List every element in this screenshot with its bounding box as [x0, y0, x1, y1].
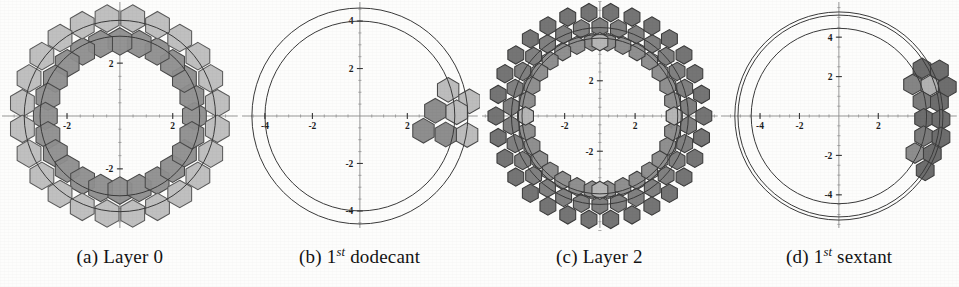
hex-cell [522, 184, 538, 202]
y-axis-tick-label: -2 [825, 151, 833, 161]
x-axis-tick-label: -2 [796, 121, 804, 131]
panel-a-plot: -22-22 [2, 2, 238, 228]
hex-cell [424, 98, 445, 123]
hex-cell [507, 46, 523, 64]
hex-cell [507, 134, 523, 152]
x-axis-tick-label: -2 [560, 121, 568, 131]
x-axis-tick-label: -2 [63, 121, 71, 131]
hex-cell [624, 206, 640, 224]
y-axis-tick-label: -2 [105, 164, 113, 174]
hex-cell [496, 149, 512, 167]
y-axis-tick-label: -2 [585, 147, 593, 157]
caption-label-a: (a) [77, 246, 99, 267]
hex-cell [539, 179, 555, 197]
y-axis-tick-label: 2 [109, 59, 114, 69]
y-axis-tick-label: 2 [828, 72, 833, 82]
hex-cell [95, 5, 119, 32]
caption-superscript-b: st [336, 245, 345, 259]
panel-c-plot: -224-224 [482, 1, 718, 230]
hex-cell [199, 65, 223, 92]
hex-cell [11, 115, 35, 142]
panel-a: -22-22 [0, 0, 240, 240]
hex-cell [559, 206, 575, 224]
caption-label-c: (c) [556, 246, 578, 267]
hex-cell [644, 179, 660, 197]
caption-panel-a: (a)Layer 0 [0, 240, 240, 287]
caption-superscript-d: st [823, 245, 832, 259]
hex-cell-highlight [517, 107, 533, 125]
caption-suffix-d: sextant [837, 246, 892, 267]
hex-cell [658, 47, 674, 65]
hex-cell [644, 35, 660, 53]
hex-cell [581, 3, 597, 21]
y-axis-tick-label: -2 [345, 159, 353, 169]
panel-d-plot: -4-22-4-224 [721, 2, 957, 228]
panel-d: -4-22-4-224 [719, 0, 959, 240]
hex-cell [413, 118, 434, 143]
hex-cell [121, 200, 145, 227]
hex-cell [676, 79, 692, 97]
hex-cell [95, 200, 119, 227]
caption-text-c: Layer 2 [583, 246, 643, 267]
x-axis-tick-label: -2 [308, 121, 316, 131]
caption-row: (a)Layer 0 (b)1st dodecant (c)Layer 2 (d… [0, 240, 959, 287]
hex-cell [602, 210, 618, 228]
hex-cell [496, 65, 512, 83]
hex-cell [661, 184, 677, 202]
hex-cell-highlight [666, 107, 682, 125]
hex-cell [695, 107, 711, 125]
caption-suffix-b: dodecant [350, 246, 420, 267]
x-axis-tick-label: 2 [170, 121, 175, 131]
x-axis-tick-label: 2 [876, 121, 881, 131]
x-axis-tick-label: -4 [756, 121, 764, 131]
hex-cell [581, 210, 597, 228]
caption-panel-b: (b)1st dodecant [240, 240, 480, 287]
caption-label-b: (b) [299, 246, 322, 267]
y-axis-tick-label: 4 [828, 33, 833, 43]
caption-text-d: 1 [814, 246, 824, 267]
hex-cell [17, 140, 41, 167]
caption-label-d: (d) [786, 246, 809, 267]
hex-cell [539, 197, 555, 215]
hex-cell [525, 166, 541, 184]
hex-cell [539, 35, 555, 53]
hex-cell [507, 168, 523, 186]
hex-cell [205, 89, 229, 116]
hex-cell [915, 126, 933, 147]
x-axis-tick-label: 2 [405, 121, 410, 131]
hex-cell [661, 30, 677, 48]
panel-c: -224-224 [480, 0, 720, 240]
panel-b-plot: -4-22-4-224 [242, 2, 480, 228]
hex-cell [686, 149, 702, 167]
caption-panel-d: (d)1st sextant [719, 240, 959, 287]
hex-cell [602, 3, 618, 21]
panel-b: -4-22-4-224 [240, 0, 480, 240]
hex-cell [11, 89, 35, 116]
hex-cell [522, 30, 538, 48]
caption-panel-c: (c)Layer 2 [480, 240, 720, 287]
y-axis-tick-label: 2 [348, 64, 353, 74]
hex-cell [490, 128, 506, 146]
hex-cell [686, 65, 702, 83]
y-axis-tick-label: -4 [825, 190, 833, 200]
hex-cell [199, 140, 223, 167]
hex-cell [624, 8, 640, 26]
hex-cell [658, 166, 674, 184]
hex-cell [487, 107, 503, 125]
hex-cell [643, 17, 659, 35]
hex-cell [559, 8, 575, 26]
hex-cell [539, 17, 555, 35]
hex-cell [205, 115, 229, 142]
figure-container: -22-22 -4-22-4-224 -224-224 -4-22-4-224 … [0, 0, 959, 287]
hex-cell [507, 79, 523, 97]
panel-row: -22-22 -4-22-4-224 -224-224 -4-22-4-224 [0, 0, 959, 240]
y-axis-tick-label: 2 [588, 76, 593, 86]
hex-cell [913, 91, 931, 111]
hex-cell [17, 65, 41, 92]
hex-cell [643, 197, 659, 215]
hex-cell [121, 5, 145, 32]
y-axis-tick-label: -4 [345, 206, 353, 216]
hex-cell [676, 46, 692, 64]
caption-text-a: Layer 0 [103, 246, 163, 267]
hex-cell [904, 74, 922, 95]
